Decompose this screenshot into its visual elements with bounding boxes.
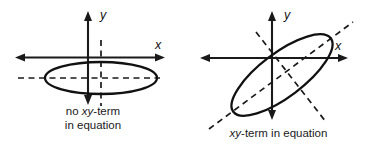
panel-left: y x bbox=[15, 8, 165, 106]
ellipse-right bbox=[220, 21, 344, 130]
caption-right: xy-term in equation bbox=[186, 126, 371, 140]
caption-left-prefix: no bbox=[66, 105, 82, 117]
x-axis-right-arrow-west bbox=[200, 54, 210, 62]
y-axis-label-left: y bbox=[99, 8, 107, 22]
y-axis-right bbox=[268, 11, 276, 120]
caption-left: no xy-term in equation bbox=[0, 104, 186, 132]
y-axis-left-arrow-north bbox=[84, 11, 92, 21]
x-axis-label-right: x bbox=[334, 39, 342, 53]
y-axis-label-right: y bbox=[283, 8, 291, 22]
caption-left-line2: in equation bbox=[0, 118, 186, 132]
caption-left-suffix: -term bbox=[93, 105, 120, 117]
y-axis-right-arrow-north bbox=[268, 11, 276, 21]
x-axis-left-arrow-west bbox=[15, 54, 25, 62]
caption-left-line1: no xy-term bbox=[0, 104, 186, 118]
x-axis-label-left: x bbox=[154, 38, 162, 52]
x-axis-right-arrow-east bbox=[338, 54, 348, 62]
conic-orientation-figure: y x y x bbox=[0, 0, 371, 146]
caption-right-italic-xy: xy bbox=[230, 127, 242, 139]
panel-right: y x bbox=[200, 8, 353, 129]
x-axis-left-arrow-east bbox=[155, 54, 165, 62]
y-axis-right-arrow-south bbox=[268, 110, 276, 120]
ellipse-right-minor-axis-dashed bbox=[256, 32, 326, 122]
caption-left-italic-xy: xy bbox=[82, 105, 94, 117]
x-axis-left bbox=[15, 54, 165, 62]
caption-right-suffix: -term in equation bbox=[241, 127, 327, 139]
